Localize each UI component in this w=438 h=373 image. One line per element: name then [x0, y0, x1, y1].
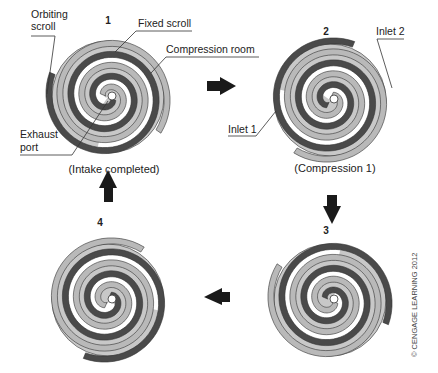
- stage-number-1: 1: [105, 15, 111, 26]
- arrow-stage2-to-stage3: [323, 195, 341, 224]
- arrow-stage1-to-stage2: [207, 77, 236, 95]
- label-compression-room: Compression room: [166, 43, 255, 55]
- stage-2-scroll-pair: [273, 38, 386, 162]
- stage-number-2: 2: [323, 26, 329, 37]
- exhaust-port: [108, 295, 116, 303]
- label-exhaust-port-line2: port: [20, 141, 38, 153]
- flow-arrow-shape: [207, 77, 236, 95]
- label-fixed-scroll: Fixed scroll: [138, 17, 191, 29]
- exhaust-port: [330, 295, 338, 303]
- label-orbiting-scroll-line2: scroll: [31, 20, 56, 32]
- scroll-compressor-diagram: 1 2 3 4 (Intake completed) (Compression …: [0, 0, 438, 373]
- stage-1-scroll-pair: [46, 40, 170, 153]
- label-orbiting-scroll-line1: Orbiting: [31, 8, 68, 20]
- stage-number-4: 4: [97, 217, 103, 228]
- label-inlet-1: Inlet 1: [228, 123, 257, 135]
- stage-number-3: 3: [323, 225, 329, 236]
- label-inlet-2: Inlet 2: [376, 25, 405, 37]
- stage-3-scroll-pair: [268, 243, 392, 356]
- caption-compression-1: (Compression 1): [294, 162, 375, 174]
- caption-intake-completed: (Intake completed): [68, 163, 159, 175]
- arrow-stage3-to-stage4: [204, 288, 230, 305]
- exhaust-port: [108, 92, 116, 100]
- leader-compression-room: [151, 57, 259, 73]
- copyright-notice: © CENGAGE LEARNING 2012: [410, 253, 419, 357]
- stage-4-scroll-pair: [51, 238, 164, 362]
- exhaust-port: [330, 95, 338, 103]
- label-exhaust-port-line1: Exhaust: [20, 128, 58, 140]
- flow-arrow-shape: [204, 288, 230, 305]
- flow-arrow-shape: [323, 195, 341, 224]
